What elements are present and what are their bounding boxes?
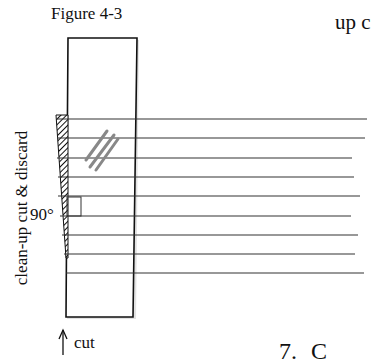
discard-wedge-hatch [56, 115, 68, 258]
cut-arrow-icon [59, 330, 67, 355]
straightedge-rectangle [66, 38, 139, 319]
